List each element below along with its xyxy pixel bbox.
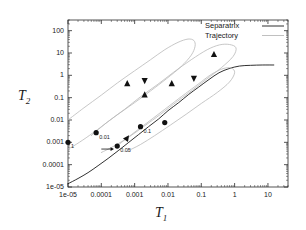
series-trajectory-middle: [91, 44, 236, 152]
y-axis-tick-label: 1: [16, 71, 64, 78]
data-point-marker: [138, 124, 143, 129]
direction-arrow-marker: [191, 76, 197, 82]
legend-label-trajectory: Trajectory: [205, 31, 238, 40]
y-axis-tick-label: 100: [16, 27, 64, 34]
data-point-label: 0.01: [99, 134, 110, 140]
x-axis-title-sub: 1: [163, 213, 168, 223]
flow-arrow-head: [111, 147, 114, 151]
legend-label-separatrix: Separatrix: [205, 21, 239, 30]
y-axis-tick-label: 0.01: [16, 116, 64, 123]
direction-arrow-marker: [211, 51, 217, 57]
x-axis-tick-label: 10: [246, 191, 290, 198]
data-point-label: 0.05: [120, 147, 131, 153]
chart-figure: T2 T1 1e-050.00010.0010.010.11101e-050.0…: [0, 0, 306, 230]
y-axis-tick-label: 0.0001: [16, 161, 64, 168]
data-point-marker: [94, 130, 99, 135]
y-axis-tick-label: 10: [16, 49, 64, 56]
data-point-marker: [162, 120, 167, 125]
x-axis-title: T1: [155, 205, 167, 223]
series-trajectory-inner: [117, 68, 234, 152]
data-point-label: 1: [71, 143, 74, 149]
direction-arrow-marker: [142, 78, 148, 84]
data-point-marker: [65, 140, 70, 145]
direction-arrow-marker: [169, 80, 175, 86]
y-axis-tick-label: 0.001: [16, 138, 64, 145]
data-point-label: 0.1: [144, 128, 152, 134]
x-axis-title-text: T: [155, 205, 163, 220]
series-trajectory-outer: [68, 39, 195, 149]
direction-arrow-marker: [124, 80, 130, 86]
y-axis-tick-label: 1e-05: [16, 183, 64, 190]
data-point-marker: [115, 143, 120, 148]
y-axis-tick-label: 0.1: [16, 94, 64, 101]
